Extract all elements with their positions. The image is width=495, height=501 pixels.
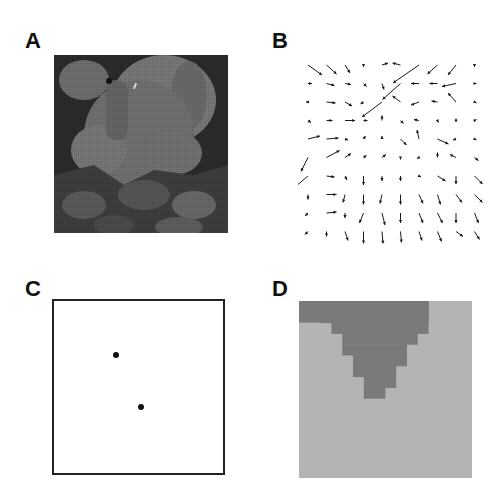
arrowhead-icon	[454, 181, 457, 184]
vector-field-plot	[298, 58, 484, 248]
arrowhead-icon	[306, 197, 309, 200]
arrowhead-icon	[334, 193, 337, 196]
arrowhead-icon	[362, 241, 365, 244]
flow-vector	[393, 65, 419, 83]
arrowhead-icon	[416, 130, 419, 133]
foreground-region	[364, 377, 396, 388]
arrowhead-icon	[473, 100, 476, 103]
arrowhead-icon	[306, 100, 309, 103]
feature-point	[138, 404, 144, 410]
foreground-region	[342, 344, 407, 355]
arrowhead-icon	[362, 64, 365, 67]
arrowhead-icon	[454, 119, 457, 122]
arrowhead-icon	[454, 220, 457, 223]
arrowhead-icon	[473, 64, 476, 67]
arrowhead-icon	[417, 156, 420, 159]
photo-illustration	[54, 55, 228, 233]
arrowhead-icon	[365, 119, 368, 122]
arrowhead-icon	[399, 157, 402, 160]
foreground-region	[331, 323, 428, 334]
panel-label-b: B	[272, 30, 288, 52]
feature-point	[113, 352, 119, 358]
segmentation-map	[299, 301, 472, 478]
arrowhead-icon	[399, 202, 402, 205]
arrowhead-icon	[330, 119, 333, 122]
arrowhead-icon	[333, 211, 336, 214]
flow-vector	[383, 84, 401, 100]
arrowhead-icon	[430, 82, 433, 85]
panel-label-a: A	[25, 30, 41, 52]
arrowhead-icon	[418, 174, 421, 177]
arrowhead-icon	[362, 202, 365, 205]
arrowhead-icon	[335, 137, 338, 140]
foreground-region	[353, 366, 396, 377]
arrowhead-icon	[325, 234, 328, 237]
arrowhead-icon	[352, 119, 355, 122]
arrowhead-icon	[442, 84, 445, 87]
toy-photograph	[54, 55, 228, 233]
foreground-region	[353, 355, 407, 366]
flow-vector	[298, 176, 308, 187]
arrowhead-icon	[362, 182, 365, 185]
foreground-region	[364, 387, 386, 398]
point-frame	[52, 299, 225, 475]
flow-vector	[362, 102, 382, 117]
panel-label-c: C	[25, 278, 41, 300]
arrowhead-icon	[379, 200, 382, 203]
arrowhead-icon	[380, 136, 383, 139]
arrowhead-icon	[474, 82, 477, 85]
arrowhead-icon	[411, 82, 414, 85]
arrowhead-icon	[399, 220, 402, 223]
arrowhead-icon	[473, 137, 476, 140]
arrowhead-icon	[380, 116, 383, 119]
arrowhead-icon	[399, 178, 402, 181]
arrowhead-icon	[400, 239, 403, 242]
arrowhead-icon	[343, 215, 346, 218]
arrowhead-icon	[309, 82, 312, 85]
arrowhead-icon	[436, 153, 439, 156]
arrowhead-icon	[380, 178, 383, 181]
arrowhead-icon	[436, 119, 439, 122]
foreground-region	[342, 333, 418, 344]
arrowhead-icon	[473, 119, 476, 122]
arrowhead-icon	[381, 240, 384, 243]
foreground-region	[299, 301, 429, 323]
panel-label-d: D	[272, 278, 288, 300]
